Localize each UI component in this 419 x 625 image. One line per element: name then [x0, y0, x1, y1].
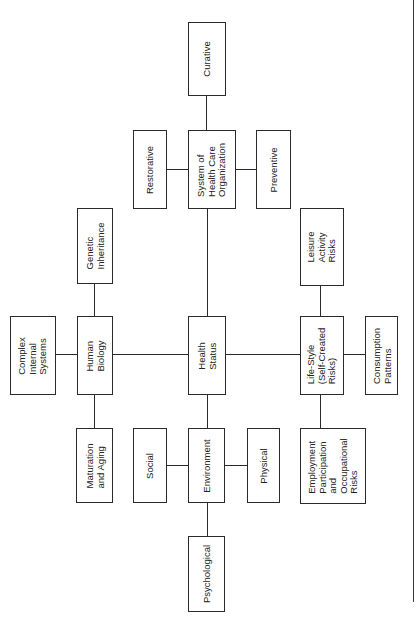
node-label: Complex Internal Systems — [17, 337, 49, 375]
node-environment: Environment — [188, 428, 225, 503]
node-genetic-inheritance: Genetic Inheritance — [77, 208, 113, 284]
node-label: Psychological — [201, 545, 212, 603]
edge-lifestyle-employment — [320, 394, 321, 428]
edge-leisure-lifestyle — [320, 285, 321, 316]
node-consumption-patterns: Consumption Patterns — [365, 316, 398, 395]
edge-complex-human-biology — [55, 354, 77, 355]
edge-curative-system — [206, 95, 207, 130]
edge-health-status-environment — [207, 394, 208, 428]
edge-human-biology-maturation — [94, 394, 95, 428]
edge-system-health-status — [207, 208, 208, 316]
page-margin-rule — [413, 0, 414, 602]
edge-environment-psychological — [207, 502, 208, 536]
node-psychological: Psychological — [188, 536, 225, 612]
node-label: Human Biology — [85, 340, 106, 371]
node-label: Maturation and Aging — [84, 443, 105, 488]
node-label: Preventive — [268, 147, 279, 192]
node-label: Leisure Activity Risks — [306, 231, 338, 262]
edge-lifestyle-consumption — [343, 354, 365, 355]
edge-system-preventive — [235, 169, 256, 170]
edge-genetic-human-biology — [94, 283, 95, 316]
node-label: Restorative — [145, 145, 156, 193]
edge-health-status-lifestyle — [225, 354, 300, 355]
node-employment-participation: Employment Participation and Occupationa… — [300, 428, 366, 504]
health-field-diagram: Curative Restorative System of Health Ca… — [0, 0, 419, 625]
node-physical: Physical — [247, 428, 280, 503]
node-label: Life-Style (Self-Created Risks) — [306, 327, 338, 384]
edge-restorative-system — [166, 169, 188, 170]
node-system-of-health-care-organization: System of Health Care Organization — [188, 130, 236, 209]
node-label: Genetic Inheritance — [85, 222, 106, 269]
node-human-biology: Human Biology — [77, 316, 113, 395]
edge-social-environment — [166, 465, 188, 466]
node-maturation-and-aging: Maturation and Aging — [76, 428, 113, 503]
node-label: Health Status — [197, 342, 218, 369]
node-complex-internal-systems: Complex Internal Systems — [10, 316, 56, 395]
node-label: Curative — [202, 41, 213, 76]
edge-environment-physical — [224, 465, 247, 466]
node-health-status: Health Status — [188, 316, 226, 395]
edge-human-biology-health-status — [112, 354, 188, 355]
node-restorative: Restorative — [133, 130, 167, 209]
node-preventive: Preventive — [256, 130, 291, 209]
node-label: Environment — [201, 439, 212, 492]
node-life-style: Life-Style (Self-Created Risks) — [300, 316, 344, 395]
node-curative: Curative — [188, 22, 226, 96]
node-social: Social — [133, 428, 167, 503]
node-label: Physical — [258, 448, 269, 483]
node-label: Consumption Patterns — [371, 328, 392, 384]
node-label: Employment Participation and Occupationa… — [307, 438, 360, 493]
node-label: Social — [145, 453, 156, 479]
node-leisure-activity-risks: Leisure Activity Risks — [300, 208, 344, 286]
node-label: System of Health Care Organization — [196, 143, 228, 197]
